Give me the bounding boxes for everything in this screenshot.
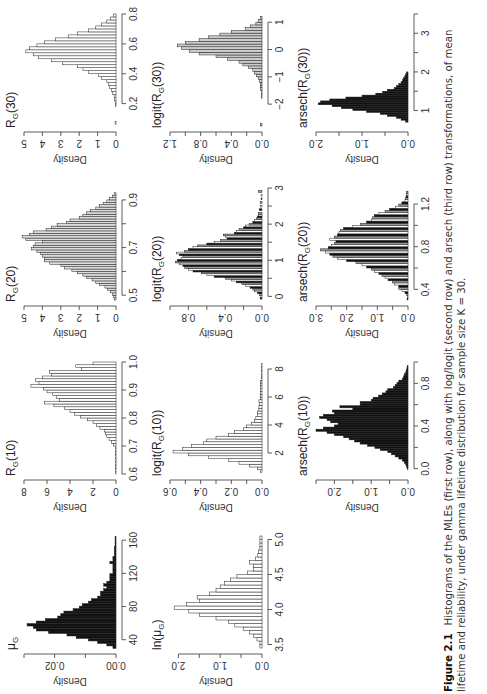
x-tick-label: 0.2 (128, 96, 139, 110)
histogram-bar (58, 616, 116, 618)
histogram-bar (113, 566, 116, 568)
histogram-bar (47, 390, 116, 393)
y-tick-label: 2.0 (171, 660, 185, 671)
histogram-bar (214, 276, 262, 278)
histogram-bar (395, 455, 408, 457)
y-tick-label: 1 (94, 312, 100, 323)
y-tick-label: 2 (76, 312, 82, 323)
histogram-bar (251, 25, 263, 28)
histogram-bar (261, 90, 262, 93)
histogram-bar (87, 212, 116, 214)
histogram-bar (388, 389, 408, 391)
histogram-bar (93, 362, 116, 365)
histogram-bar (393, 387, 408, 389)
histogram-bar (396, 206, 408, 208)
histogram-bar (83, 214, 116, 216)
histogram-bar (110, 290, 116, 292)
histogram-bar (323, 414, 408, 416)
histogram-bar (327, 419, 408, 421)
y-tick-label: 0.0 (401, 486, 415, 497)
histogram-bar (77, 65, 116, 68)
histogram-bar (256, 22, 262, 25)
histogram-svg: 1230.01.02.0Density (296, 12, 436, 172)
histogram-bar (98, 641, 116, 643)
y-tick-label: 0.6 (163, 486, 177, 497)
histogram-bar (337, 257, 408, 259)
histogram-bar (193, 247, 262, 249)
histogram-bar (76, 636, 116, 638)
histogram-bar (182, 47, 263, 50)
histogram-bar (330, 99, 408, 101)
x-tick-label: 0.4 (420, 282, 431, 296)
histogram-bar (399, 84, 408, 86)
histogram-bar (331, 421, 408, 423)
histogram-bar (406, 463, 408, 465)
histogram-bar (111, 89, 116, 92)
y-tick-label: 0 (113, 312, 119, 323)
histogram-bar (258, 19, 262, 22)
x-tick-label: 2 (274, 221, 285, 227)
histogram-svg: −2−1010.00.40.81.2Density (150, 12, 290, 172)
histogram-bar (406, 193, 408, 195)
histogram-bar (199, 613, 262, 617)
histogram-bar (80, 415, 116, 418)
histogram-bar (261, 93, 262, 96)
x-tick-label: 1 (274, 19, 285, 25)
histogram-svg: 0.00.40.80.01.02.0Density (296, 360, 436, 520)
x-tick-label: −1 (274, 71, 285, 83)
x-tick-label: 0.6 (128, 36, 139, 50)
histogram-bar (387, 89, 408, 91)
histogram-bar (390, 208, 408, 210)
histogram-bar (259, 408, 262, 411)
histogram-bar (227, 238, 262, 240)
histogram-panel: μG40801201600.000.02Density (4, 534, 144, 694)
histogram-bar (107, 200, 116, 202)
histogram-bar (55, 38, 116, 41)
histogram-bar (260, 389, 262, 392)
y-tick-label: 0.4 (224, 138, 238, 149)
histogram-bar (225, 236, 262, 238)
histogram-bar (83, 274, 116, 276)
histogram-bar (231, 30, 262, 33)
histogram-bar (101, 77, 116, 80)
histogram-bar (109, 438, 116, 441)
histogram-bar (41, 252, 116, 254)
figure-label: Figure 2.1 (443, 633, 454, 692)
histogram-bar (113, 14, 116, 17)
histogram-bar (109, 83, 116, 86)
histogram-bar (61, 264, 116, 266)
histogram-bar (177, 259, 262, 261)
histogram-bar (260, 17, 262, 20)
histogram-bar (183, 256, 262, 258)
histogram-bar (334, 433, 408, 435)
histogram-bar (114, 298, 116, 300)
rotated-figure-page: μG40801201600.000.02DensityRG(10)0.60.70… (0, 0, 487, 694)
y-tick-label: 5 (21, 312, 27, 323)
histogram-bar (88, 71, 116, 74)
y-tick-label: 1.0 (364, 486, 378, 497)
histogram-bar (67, 633, 116, 635)
histogram-bar (243, 627, 262, 631)
x-tick-label: 0.8 (420, 239, 431, 253)
histogram-bar (52, 59, 116, 62)
y-tick-label: 4 (67, 486, 73, 497)
histogram-bar (258, 77, 262, 80)
histogram-bar (248, 66, 262, 69)
histogram-bar (249, 561, 262, 565)
histogram-bar (256, 417, 262, 420)
histogram-bar (397, 116, 409, 118)
histogram-bar (397, 85, 409, 87)
histogram-bar (251, 422, 262, 425)
y-tick-label: 0.8 (181, 312, 195, 323)
histogram-bar (407, 296, 408, 298)
histogram-bar (107, 80, 116, 83)
histogram-bar (260, 85, 262, 88)
histogram-bar (371, 219, 408, 221)
histogram-svg: 3.54.04.55.00.01.02.0Density (150, 534, 290, 694)
histogram-bar (407, 298, 408, 300)
histogram-bar (253, 69, 262, 72)
y-tick-label: 0.4 (193, 486, 207, 497)
histogram-bar (344, 436, 408, 438)
y-tick-label: 0.0 (255, 312, 269, 323)
y-axis-label: Density (345, 502, 378, 513)
